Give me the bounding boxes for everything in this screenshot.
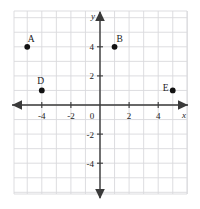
y-axis-tick-label: -4 <box>87 159 95 169</box>
y-axis-name-label: y <box>90 11 95 21</box>
point-label-d: D <box>37 76 44 86</box>
coordinate-plane-figure: -4-22442-2-4 0 x y ABDE <box>0 0 200 209</box>
point-marker-e <box>170 88 176 94</box>
point-marker-b <box>112 44 118 50</box>
point-label-a: A <box>28 34 35 44</box>
x-axis-tick-label: -4 <box>38 111 46 121</box>
point-marker-a <box>24 44 30 50</box>
point-label-b: B <box>116 34 122 44</box>
origin-label: 0 <box>90 111 95 121</box>
x-axis-tick-label: 4 <box>156 111 161 121</box>
x-axis-tick-label: 2 <box>127 111 132 121</box>
point-label-e: E <box>163 83 169 93</box>
y-axis-tick-label: -2 <box>87 130 95 140</box>
y-axis-tick-label: 2 <box>90 71 95 81</box>
point-marker-d <box>39 88 45 94</box>
x-axis-name-label: x <box>181 110 186 120</box>
coordinate-plane-svg: -4-22442-2-4 0 x y ABDE <box>0 0 200 209</box>
y-axis-tick-label: 4 <box>90 42 95 52</box>
x-axis-tick-label: -2 <box>67 111 75 121</box>
